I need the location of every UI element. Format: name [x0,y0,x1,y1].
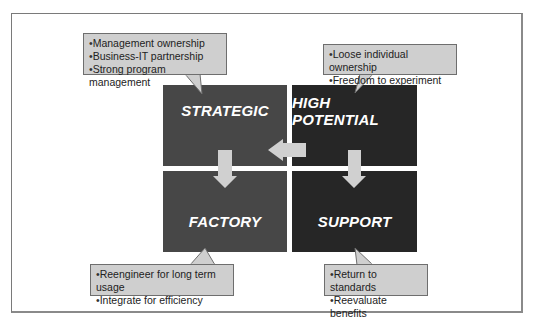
arrow-down-high-potential-icon [342,150,366,188]
callout-item: Loose individual ownership [329,48,451,74]
callout-item: Return to standards [330,268,422,294]
callout-high-potential: Loose individual ownership Freedom to ex… [323,44,457,75]
callout-item: Business-IT partnership [89,50,221,63]
arrow-left-icon [268,139,306,161]
callout-item: Reengineer for long term usage [96,268,228,294]
callout-item: Freedom to experiment [329,74,451,87]
arrow-down-strategic-icon [213,150,237,188]
callout-support: Return to standards Reevaluate benefits [324,264,428,296]
callout-item: Integrate for efficiency [96,294,228,307]
callout-tail-support [355,248,373,265]
callout-factory: Reengineer for long term usage Integrate… [90,264,234,296]
callout-tail-factory [190,248,215,265]
callout-strategic: Management ownership Business-IT partner… [83,33,227,75]
callout-item: Strong program management [89,63,221,89]
callout-item: Reevaluate benefits [330,294,422,320]
callout-item: Management ownership [89,37,221,50]
